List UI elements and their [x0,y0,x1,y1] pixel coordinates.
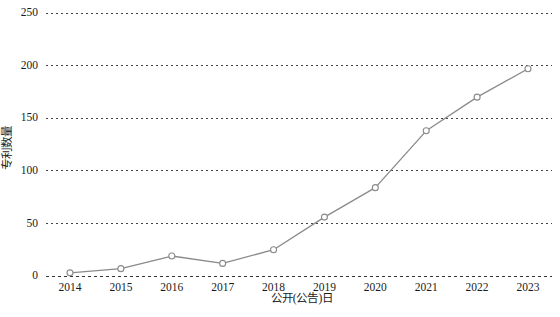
data-point-marker [220,260,226,266]
y-axis-tick-labels: 050100150200250 [21,6,39,281]
data-point-marker [423,128,429,134]
data-point-marker [67,270,73,276]
y-axis-title: 专利数量 [0,126,13,170]
y-axis-tick-label: 50 [27,217,39,229]
y-axis-tick-label: 250 [21,6,39,18]
y-axis-tick-label: 100 [21,164,39,176]
patent-count-line-chart: 050100150200250 201420152016201720182019… [0,0,560,317]
x-axis-tick-label: 2016 [160,281,183,293]
gridlines [46,13,552,276]
data-point-marker [474,94,480,100]
data-point-marker [271,247,277,253]
x-axis-tick-label: 2014 [59,281,82,293]
data-point-marker [169,253,175,259]
x-axis-tick-label: 2022 [466,281,489,293]
x-axis-title: 公开(公告)日 [271,292,334,305]
chart-canvas: 050100150200250 201420152016201720182019… [0,0,560,317]
y-axis-tick-label: 200 [21,59,39,71]
x-axis-tick-label: 2015 [109,281,132,293]
data-point-marker [372,185,378,191]
data-point-marker [525,66,531,72]
x-axis-tick-label: 2020 [364,281,387,293]
data-line-series [70,69,528,273]
x-axis-tick-label: 2023 [517,281,540,293]
x-axis-tick-label: 2017 [211,281,234,293]
x-axis-tick-label: 2021 [415,281,438,293]
y-axis-tick-label: 0 [32,269,38,281]
y-axis-tick-label: 150 [21,111,39,123]
data-point-marker [321,214,327,220]
data-point-marker [118,266,124,272]
